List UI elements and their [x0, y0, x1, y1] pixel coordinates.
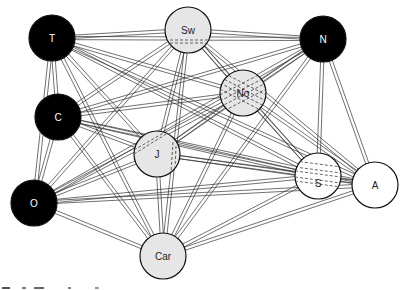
edge-A-Car	[162, 183, 375, 257]
node-N: N	[300, 16, 346, 62]
node-Sw: Sw	[165, 7, 211, 53]
edge-Sw-A	[187, 29, 376, 186]
nodes-layer: TSwNNoCJSAOCar	[11, 7, 398, 279]
node-label: No	[237, 88, 250, 99]
figure-caption-cropped	[0, 286, 140, 290]
node-label: O	[30, 198, 38, 209]
node-O: O	[11, 180, 57, 226]
node-No: No	[220, 70, 266, 116]
node-label: S	[315, 178, 322, 189]
node-S: S	[295, 153, 341, 199]
node-label: C	[54, 112, 61, 123]
node-label: T	[49, 33, 55, 44]
node-Car: Car	[140, 233, 186, 279]
network-diagram: TSwNNoCJSAOCar	[0, 0, 408, 290]
node-A: A	[352, 162, 398, 208]
edge-No-Car	[162, 92, 245, 256]
node-C: C	[35, 94, 81, 140]
node-label: J	[155, 149, 160, 160]
edges-layer	[32, 28, 376, 257]
node-T: T	[29, 15, 75, 61]
node-label: N	[319, 34, 326, 45]
node-label: Sw	[181, 25, 196, 36]
node-J: J	[134, 131, 180, 177]
node-label: A	[372, 180, 379, 191]
node-label: Car	[155, 251, 172, 262]
